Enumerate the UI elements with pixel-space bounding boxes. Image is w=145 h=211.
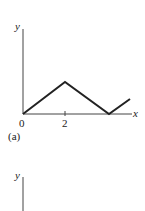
y-axis-label-a: y xyxy=(15,21,20,32)
function-curve xyxy=(23,82,130,114)
y-axis-label-b: y xyxy=(15,170,20,181)
panel-label-a: (a) xyxy=(8,131,20,142)
tick-label-2: 2 xyxy=(62,118,68,129)
x-axis-label-a: x xyxy=(133,108,138,119)
origin-label: 0 xyxy=(19,118,25,129)
graph-canvas xyxy=(0,0,145,211)
